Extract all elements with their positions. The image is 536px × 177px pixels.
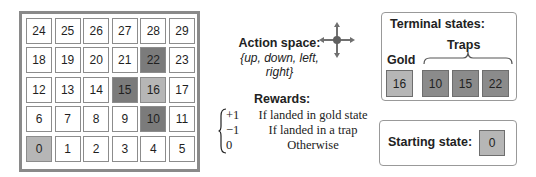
grid-cell-normal: 5 [169,136,195,162]
reward-case: −1If landed in a trap [226,123,378,138]
grid-cell-normal: 24 [26,18,52,44]
terminal-states-title: Terminal states: [390,17,485,31]
traps-brace-icon [423,51,513,65]
grid-cell-normal: 8 [83,106,109,132]
grid-cell-normal: 28 [140,18,166,44]
grid-cell-normal: 18 [26,47,52,73]
grid-cell-normal: 9 [112,106,138,132]
grid-cell-normal: 11 [169,106,195,132]
grid-cell-normal: 6 [26,106,52,132]
grid-cell-normal: 21 [112,47,138,73]
grid-cell-normal: 25 [55,18,81,44]
grid-cell-normal: 12 [26,77,52,103]
grid-cell-start: 0 [26,136,52,162]
trap-state-box: 15 [452,70,479,97]
terminal-states-panel: Terminal states: Traps Gold 16 10 15 22 [381,12,517,101]
grid-cell-normal: 13 [55,77,81,103]
grid-cell-normal: 1 [55,136,81,162]
gold-state-box: 16 [386,70,413,97]
grid-cell-normal: 23 [169,47,195,73]
starting-state-label: Starting state: [388,135,472,149]
grid-cell-normal: 20 [83,47,109,73]
grid-cell-normal: 19 [55,47,81,73]
action-space: Action space: {up, down, left, right} [232,36,327,79]
reward-value: −1 [226,123,248,138]
grid-cell-normal: 17 [169,77,195,103]
grid-cell-normal: 2 [83,136,109,162]
gridworld: 2425262728291819202122231213141516176789… [19,11,200,172]
action-space-set: {up, down, left, right} [232,51,327,79]
grid-cell-normal: 27 [112,18,138,44]
action-space-title: Action space: [232,36,327,50]
traps-label: Traps [447,38,480,52]
grid-cell-normal: 14 [83,77,109,103]
grid-cell-normal: 3 [112,136,138,162]
grid-cell-trap: 22 [140,47,166,73]
grid-cell-normal: 4 [140,136,166,162]
grid-cell-normal: 26 [83,18,109,44]
grid-cell-normal: 7 [55,106,81,132]
trap-state-box: 22 [482,70,509,97]
reward-case: +1If landed in gold state [226,108,378,123]
grid-cell-gold: 16 [140,77,166,103]
gridworld-cells: 2425262728291819202122231213141516176789… [26,18,195,162]
gold-label: Gold [387,53,415,67]
grid-cell-trap: 10 [140,106,166,132]
reward-case: 0Otherwise [226,138,378,153]
reward-condition: If landed in gold state [248,108,378,123]
reward-value: 0 [226,138,248,153]
reward-condition: If landed in a trap [248,123,378,138]
trap-state-box: 10 [422,70,449,97]
grid-cell-normal: 29 [169,18,195,44]
grid-cell-trap: 15 [112,77,138,103]
starting-state-panel: Starting state: 0 [379,120,517,166]
reward-value: +1 [226,108,248,123]
rewards-title: Rewards: [254,92,310,106]
four-way-arrow-icon [318,21,356,59]
starting-state-box: 0 [479,130,505,156]
reward-condition: Otherwise [248,138,378,153]
